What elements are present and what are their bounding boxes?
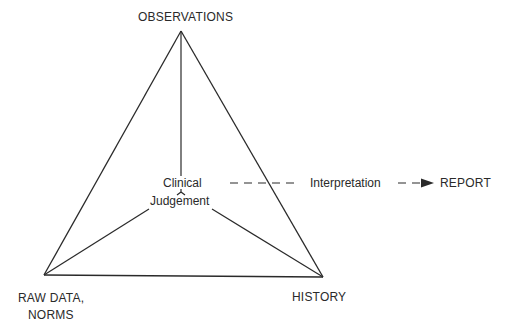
edge-observations-history [181, 31, 323, 277]
label-raw-data: RAW DATA, [18, 291, 84, 305]
label-history: HISTORY [292, 290, 346, 304]
edge-rawdata-history [44, 275, 323, 277]
spoke-history [212, 209, 323, 277]
inner-spokes [44, 31, 323, 277]
spoke-rawdata [44, 209, 149, 275]
label-report: REPORT [440, 176, 491, 190]
label-clinical: Clinical [163, 176, 202, 190]
label-norms: NORMS [28, 308, 74, 322]
edge-observations-rawdata [44, 31, 181, 275]
triangle-diagram [0, 0, 516, 330]
label-judgement: Judgement [150, 194, 209, 208]
label-interpretation: Interpretation [310, 176, 381, 190]
arrow-right-icon [421, 179, 434, 188]
outer-triangle [44, 31, 323, 277]
label-observations: OBSERVATIONS [138, 10, 233, 24]
